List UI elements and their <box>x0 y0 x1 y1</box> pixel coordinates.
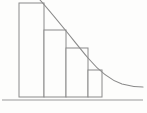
bar-3 <box>66 48 88 97</box>
bar-chart-with-trend-curve <box>0 0 147 113</box>
bar-1 <box>19 3 44 97</box>
bar-2 <box>44 30 66 97</box>
chart-figure <box>0 0 147 113</box>
bars-group <box>19 3 102 97</box>
bar-4 <box>88 70 102 97</box>
